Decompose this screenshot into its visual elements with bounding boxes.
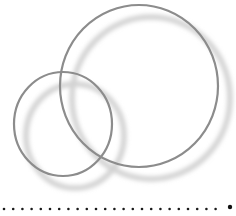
divider-dot xyxy=(159,208,162,211)
divider-dot xyxy=(132,208,135,211)
divider-dot xyxy=(30,208,33,211)
divider-dot xyxy=(76,208,79,211)
divider-dot xyxy=(141,208,144,211)
divider-dot xyxy=(104,208,107,211)
divider-dot xyxy=(196,208,199,211)
divider-dot xyxy=(150,208,153,211)
divider-dot xyxy=(95,208,98,211)
divider-dot xyxy=(205,208,208,211)
divider-dot xyxy=(178,208,181,211)
divider-end-dot xyxy=(228,205,232,209)
divider-dots xyxy=(3,208,217,211)
divider-dot xyxy=(113,208,116,211)
circle-shadows xyxy=(26,17,230,188)
overlapping-circles-illustration xyxy=(0,0,236,216)
divider-dot xyxy=(3,208,6,211)
divider-dot xyxy=(187,208,190,211)
divider-dot xyxy=(40,208,43,211)
divider-dot xyxy=(168,208,171,211)
small-ring-shadow xyxy=(26,84,124,188)
divider-dot xyxy=(58,208,61,211)
divider-dot xyxy=(86,208,89,211)
divider-dot xyxy=(67,208,70,211)
divider-dot xyxy=(122,208,125,211)
divider-dot xyxy=(49,208,52,211)
dotted-divider xyxy=(0,204,236,212)
divider-dot xyxy=(214,208,217,211)
divider-dot xyxy=(21,208,24,211)
circle-rings xyxy=(14,5,218,176)
divider-dot xyxy=(12,208,15,211)
